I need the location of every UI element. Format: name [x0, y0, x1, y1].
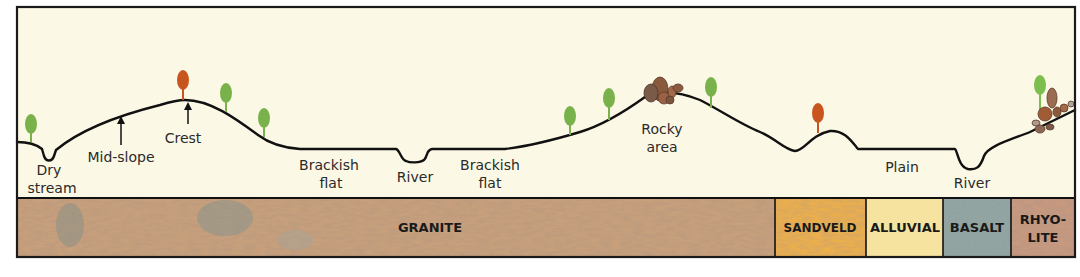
geology-granite	[17, 198, 775, 257]
label-rocky-area-line2: area	[646, 139, 677, 155]
geology-label-rhyolite-line1: RHYO-	[1020, 212, 1067, 227]
landscape-cross-section-diagram: Dry stream Mid-slope Crest Brackish flat…	[0, 0, 1080, 277]
label-river-1: River	[397, 169, 434, 185]
label-brackish-flat-2-line1: Brackish	[460, 157, 520, 173]
label-dry-stream-line1: Dry	[37, 162, 62, 178]
label-dry-stream-line2: stream	[27, 180, 76, 196]
geology-rhyolite	[1011, 198, 1075, 257]
label-plain: Plain	[885, 159, 919, 175]
geology-label-alluvial: ALLUVIAL	[870, 220, 940, 235]
geology-label-rhyolite-line2: LITE	[1028, 230, 1059, 245]
label-river-2: River	[954, 175, 991, 191]
geology-band: GRANITE SANDVELD ALLUVIAL BASALT RHYO- L…	[17, 198, 1075, 257]
geology-label-sandveld: SANDVELD	[783, 221, 856, 235]
label-brackish-flat-2-line2: flat	[479, 175, 502, 191]
label-crest: Crest	[165, 130, 202, 146]
geology-label-granite: GRANITE	[398, 220, 462, 235]
label-rocky-area-line1: Rocky	[641, 121, 682, 137]
label-mid-slope: Mid-slope	[87, 149, 154, 165]
label-brackish-flat-1-line2: flat	[320, 175, 343, 191]
geology-label-basalt: BASALT	[950, 220, 1005, 235]
label-brackish-flat-1-line1: Brackish	[299, 157, 359, 173]
